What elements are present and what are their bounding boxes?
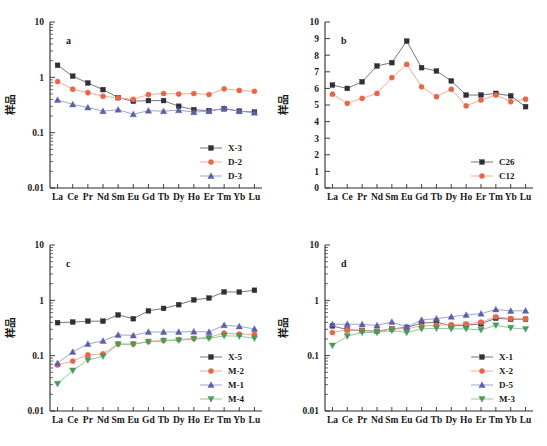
data-point [330,92,335,97]
data-point [55,320,60,325]
data-point [493,92,498,97]
data-point [360,96,365,101]
x-tick-label-la: La [327,192,338,202]
data-point [389,319,395,325]
data-point [344,334,350,340]
panel-letter: a [66,35,71,46]
data-point [419,65,424,70]
legend: X-1X-2D-5M-3 [471,352,515,404]
x-tick-label-eu: Eu [127,192,139,202]
x-tick-label-nd: Nd [97,192,110,202]
data-point [419,84,424,89]
x-tick-label-gd: Gd [415,415,428,425]
data-point [252,288,257,293]
y-tick-label: 1 [314,167,319,177]
legend-label-x-1: X-1 [499,352,513,362]
x-tick-label-tb: Tb [431,415,443,425]
data-point [101,319,106,324]
panel-c: 0.010.1110LaCePrNdSmEuGdTbDyHoErTmYbLu样品… [0,223,274,446]
data-point [464,103,469,108]
data-point [523,316,528,321]
data-point [161,306,166,311]
y-tick-label: 2 [314,150,319,160]
x-tick-label-yb: Yb [233,415,245,425]
x-tick-label-er: Er [476,415,487,425]
data-point [508,93,513,98]
x-tick-label-pr: Pr [357,415,368,425]
panel-d: 0.010.1110LaCePrNdSmEuGdTbDyHoErTmYbLu样品… [273,223,547,446]
data-point [146,92,151,97]
series-d-3 [54,97,257,117]
y-axis-title: 样品 [277,318,289,338]
legend-marker [208,368,213,373]
data-point [85,352,90,357]
y-tick-label: 1 [39,73,44,83]
x-tick-label-sm: Sm [385,192,398,202]
y-axis-title: 样品 [4,95,16,115]
data-point [493,306,499,312]
data-point [70,349,76,355]
data-point [360,79,365,84]
data-point [493,314,498,319]
x-tick-label-er: Er [204,192,215,202]
data-point [508,316,513,321]
series-x-5 [55,288,257,325]
data-point [522,327,528,333]
x-tick-label-nd: Nd [97,415,110,425]
data-point [70,87,75,92]
legend-marker [209,355,214,360]
x-tick-label-ho: Ho [460,192,472,202]
data-point [100,338,106,344]
x-tick-label-yb: Yb [233,192,245,202]
data-point [101,87,106,92]
x-axis-ticks: LaCePrNdSmEuGdTbDyHoErTmYbLu [327,184,532,202]
data-point [404,330,410,336]
x-tick-label-dy: Dy [445,192,457,202]
data-point [85,358,91,364]
legend-label-x-3: X-3 [228,143,242,153]
legend-label-m-3: M-3 [499,394,515,404]
y-tick-label: 8 [314,51,319,61]
y-tick-label: 0.1 [32,128,44,138]
data-point [508,99,513,104]
legend: C26C12 [471,157,515,181]
data-point [345,327,350,332]
data-point [70,74,75,79]
data-point [449,79,454,84]
y-tick-label: 4 [314,117,319,127]
x-axis-ticks: LaCePrNdSmEuGdTbDyHoErTmYbLu [52,407,261,425]
data-point [464,321,469,326]
x-tick-label-lu: Lu [249,415,261,425]
y-tick-label: 7 [314,67,319,77]
legend-marker [209,146,214,151]
y-tick-label: 1 [314,296,319,306]
x-tick-label-ce: Ce [342,415,353,425]
y-axis-title: 样品 [277,95,289,115]
data-point [191,297,196,302]
data-point [330,330,335,335]
legend-label-c26: C26 [499,157,515,167]
legend-label-d-3: D-3 [228,171,242,181]
y-tick-label: 6 [314,84,319,94]
x-tick-label-gd: Gd [142,415,155,425]
data-point [100,94,105,99]
data-point [161,91,166,96]
data-point [222,290,227,295]
x-tick-label-tb: Tb [158,415,170,425]
x-tick-label-tm: Tm [217,415,231,425]
data-point [464,93,469,98]
legend: X-3D-2D-3 [200,143,242,181]
y-tick-label: 1 [39,296,44,306]
legend-label-x-5: X-5 [228,352,242,362]
data-point [523,97,528,102]
x-tick-label-yb: Yb [505,192,517,202]
x-tick-label-nd: Nd [371,415,384,425]
data-point [54,381,60,387]
panel-letter: c [66,258,71,269]
data-point [131,316,136,321]
x-tick-label-ho: Ho [460,415,472,425]
x-tick-label-tm: Tm [489,192,503,202]
data-point [434,94,439,99]
y-axis-ticks: 0.010.1110 [27,240,55,416]
data-point [478,97,483,102]
